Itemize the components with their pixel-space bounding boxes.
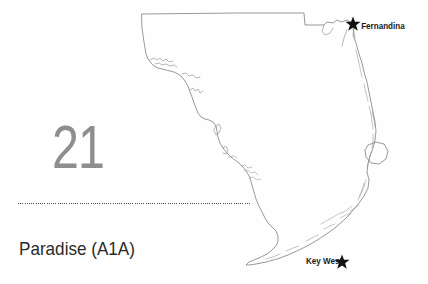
florida-map: Fernandina Key West bbox=[128, 0, 428, 284]
keys-chain-2 bbox=[306, 235, 318, 241]
keys-chain-1 bbox=[324, 224, 335, 229]
atlantic-barrier-group bbox=[321, 50, 375, 224]
city-label-fernandina: Fernandina bbox=[361, 21, 405, 31]
lake-okeechobee bbox=[365, 142, 388, 164]
gulf-coast-detail-group bbox=[214, 124, 261, 180]
apalachicola-bay bbox=[182, 73, 200, 78]
everglades-edge bbox=[321, 212, 342, 224]
biscayne-bay bbox=[359, 183, 364, 197]
city-label-key-west: Key West bbox=[306, 256, 342, 266]
keys-chain-3 bbox=[286, 246, 299, 251]
panhandle-detail-group bbox=[150, 58, 203, 93]
barrier-island-5 bbox=[367, 152, 371, 167]
panhandle-bay-1 bbox=[150, 58, 173, 62]
north-inlet bbox=[322, 25, 333, 35]
keys-chain-4 bbox=[266, 254, 280, 259]
panhandle-bay-2 bbox=[155, 63, 177, 67]
big-bend-marsh bbox=[190, 88, 203, 93]
barrier-island-2 bbox=[364, 84, 368, 101]
florida-bay-1 bbox=[342, 206, 352, 213]
florida-keys-group bbox=[266, 205, 359, 259]
barrier-island-4 bbox=[372, 134, 373, 148]
st-johns-river bbox=[342, 30, 347, 46]
chapter-number: 21 bbox=[52, 116, 104, 178]
florida-coastline-group bbox=[142, 13, 376, 265]
chapter-title: Paradise (A1A) bbox=[19, 238, 135, 260]
state-outline-path bbox=[142, 13, 376, 265]
key-largo bbox=[340, 213, 351, 218]
chapter-opener-page: 21 Paradise (A1A) bbox=[0, 0, 428, 284]
city-markers-group bbox=[334, 17, 360, 269]
